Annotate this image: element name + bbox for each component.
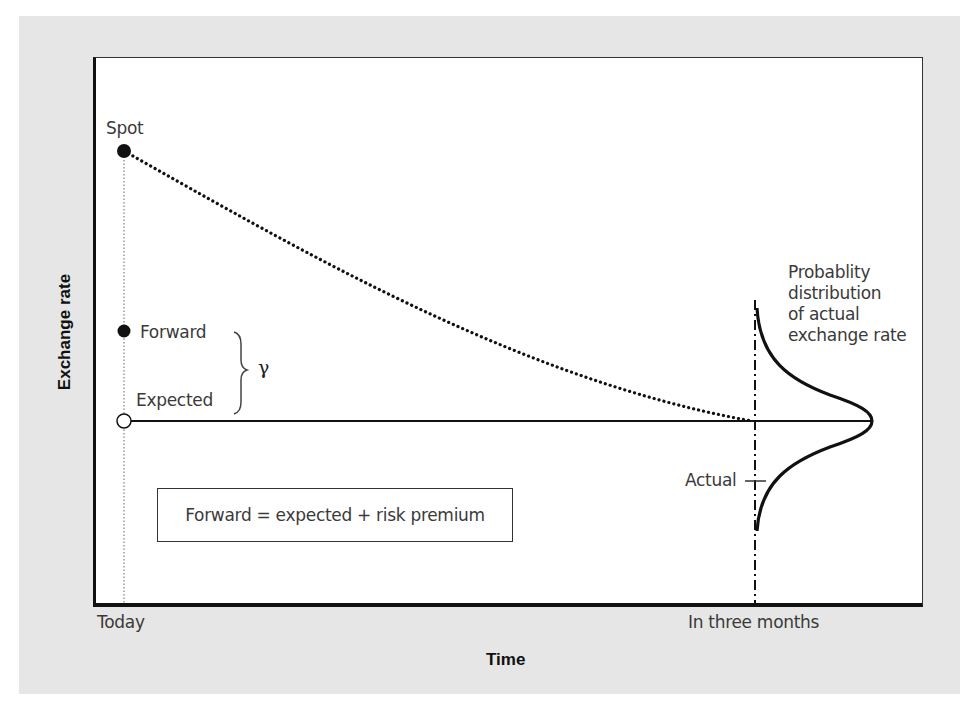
distribution-label: Probablity distribution of actual exchan… bbox=[788, 262, 907, 346]
spot-label: Spot bbox=[106, 118, 143, 138]
distribution-label-line-4: exchange rate bbox=[788, 325, 907, 346]
y-axis-title: Exchange rate bbox=[55, 267, 75, 397]
x-axis-title: Time bbox=[486, 650, 525, 670]
spot-point bbox=[117, 144, 131, 158]
expected-label: Expected bbox=[136, 390, 213, 410]
x-tick-three-months: In three months bbox=[688, 612, 819, 632]
gamma-symbol: γ bbox=[258, 356, 269, 378]
diagram-graphics bbox=[0, 0, 980, 718]
expected-point bbox=[117, 414, 131, 428]
distribution-label-line-3: of actual bbox=[788, 304, 907, 325]
distribution-label-line-1: Probablity bbox=[788, 262, 907, 283]
equation-box: Forward = expected + risk premium bbox=[157, 488, 513, 542]
forward-point bbox=[118, 325, 131, 338]
equation-text: Forward = expected + risk premium bbox=[185, 505, 485, 525]
actual-label: Actual bbox=[685, 470, 736, 490]
spot-to-expected-curve bbox=[124, 151, 752, 421]
risk-premium-brace bbox=[234, 332, 247, 414]
x-tick-today: Today bbox=[97, 612, 145, 632]
forward-label: Forward bbox=[140, 322, 206, 342]
distribution-label-line-2: distribution bbox=[788, 283, 907, 304]
